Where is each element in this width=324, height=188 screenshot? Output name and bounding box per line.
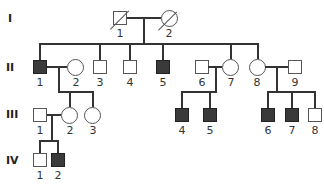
individual-II-7 <box>222 59 239 76</box>
id-label: 9 <box>285 76 305 89</box>
individual-II-1 <box>33 60 47 74</box>
drop-line <box>314 91 316 108</box>
descent-line <box>143 17 145 44</box>
generation-label-IV: IV <box>6 154 19 167</box>
descent-line <box>276 66 278 92</box>
drop-line <box>267 91 269 108</box>
individual-III-2 <box>61 107 78 124</box>
individual-III-1 <box>33 108 47 122</box>
drop-line <box>162 43 164 60</box>
id-label: 5 <box>200 124 220 137</box>
drop-line <box>291 91 293 108</box>
id-label: 4 <box>120 76 140 89</box>
descent-line <box>58 66 60 92</box>
individual-II-3 <box>93 60 107 74</box>
drop-line <box>57 140 59 153</box>
drop-line <box>230 43 232 59</box>
individual-III-6 <box>261 108 275 122</box>
sibship-line <box>39 140 59 142</box>
individual-III-3 <box>84 107 101 124</box>
id-label: 1 <box>30 76 50 89</box>
individual-II-6 <box>195 60 209 74</box>
individual-II-2 <box>67 59 84 76</box>
id-label: 6 <box>258 124 278 137</box>
id-label: 1 <box>30 124 50 137</box>
id-label: 2 <box>48 169 68 182</box>
sibship-line <box>58 91 93 93</box>
generation-label-I: I <box>8 12 12 25</box>
id-label: 4 <box>172 124 192 137</box>
individual-II-4 <box>123 60 137 74</box>
drop-line <box>129 43 131 60</box>
generation-label-III: III <box>6 108 18 121</box>
individual-II-5 <box>156 60 170 74</box>
id-label: 6 <box>192 76 212 89</box>
individual-II-8 <box>249 59 266 76</box>
id-label: 1 <box>110 27 130 40</box>
id-label: 1 <box>30 169 50 182</box>
descent-line <box>51 114 53 141</box>
id-label: 2 <box>66 76 86 89</box>
drop-line <box>39 43 41 60</box>
individual-III-7 <box>285 108 299 122</box>
id-label: 3 <box>83 124 103 137</box>
id-label: 2 <box>159 27 179 40</box>
drop-line <box>181 91 183 108</box>
drop-line <box>39 140 41 153</box>
pedigree-chart: I II III IV 1 2 1 2 3 4 5 6 7 8 9 <box>0 0 324 188</box>
marriage-line <box>47 114 61 116</box>
individual-III-4 <box>175 108 189 122</box>
id-label: 8 <box>305 124 324 137</box>
id-label: 7 <box>282 124 302 137</box>
individual-IV-1 <box>33 153 47 167</box>
id-label: 3 <box>90 76 110 89</box>
sibship-line <box>181 91 217 93</box>
individual-IV-2 <box>51 153 65 167</box>
generation-label-II: II <box>6 61 14 74</box>
marriage-line <box>47 66 67 68</box>
id-label: 2 <box>60 124 80 137</box>
drop-line <box>92 91 94 107</box>
individual-II-9 <box>288 60 302 74</box>
id-label: 8 <box>247 76 267 89</box>
drop-line <box>257 43 259 59</box>
drop-line <box>69 91 71 107</box>
id-label: 7 <box>221 76 241 89</box>
id-label: 5 <box>153 76 173 89</box>
individual-III-8 <box>308 108 322 122</box>
drop-line <box>99 43 101 60</box>
sibship-line <box>39 43 259 45</box>
drop-line <box>209 91 211 108</box>
individual-III-5 <box>203 108 217 122</box>
descent-line <box>215 66 217 92</box>
